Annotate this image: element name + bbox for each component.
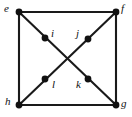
graph-vertex-h [16, 102, 23, 109]
vertex-label-l: l [52, 79, 55, 90]
vertex-label-f: f [121, 3, 124, 14]
vertex-label-j: j [76, 28, 79, 39]
vertex-label-g: g [121, 98, 127, 109]
edge-layer [19, 12, 116, 105]
graph-canvas [0, 0, 132, 117]
vertex-label-e: e [4, 3, 9, 14]
graph-vertex-k [85, 76, 92, 83]
graph-vertex-g [113, 102, 120, 109]
vertex-label-i: i [51, 28, 54, 39]
vertex-label-h: h [5, 96, 11, 107]
graph-vertex-f [113, 9, 120, 16]
graph-vertex-e [16, 9, 23, 16]
graph-figure: efghijkl [0, 0, 132, 117]
vertex-label-k: k [76, 79, 81, 90]
graph-vertex-i [42, 35, 49, 42]
graph-vertex-j [85, 36, 92, 43]
graph-vertex-l [42, 76, 49, 83]
